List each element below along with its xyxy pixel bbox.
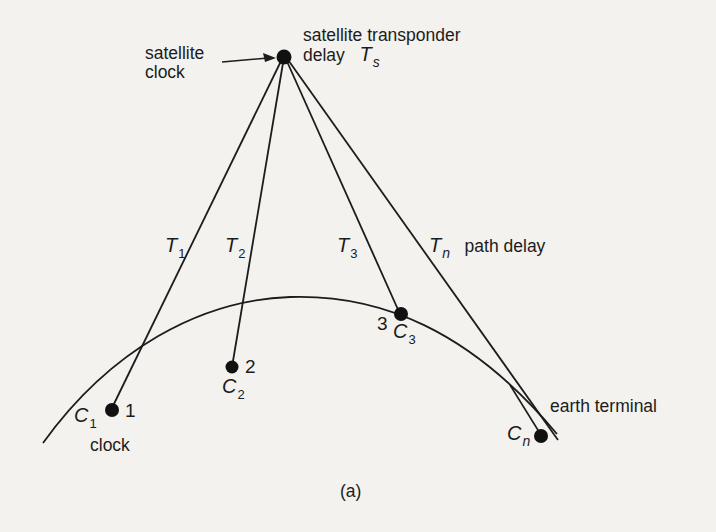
t3-subscript: 3 xyxy=(350,246,357,261)
tn-symbol: T xyxy=(429,234,441,256)
path-line-1 xyxy=(111,57,283,410)
c3-subscript: 3 xyxy=(408,332,415,347)
cn-symbol: C xyxy=(507,422,521,444)
terminal-node-n xyxy=(534,429,548,443)
t2-subscript: 2 xyxy=(238,246,245,261)
path-label-3: T3 xyxy=(337,236,357,257)
ts-subscript: s xyxy=(373,54,380,70)
t2-symbol: T xyxy=(225,234,237,256)
figure-caption: (a) xyxy=(340,482,361,501)
terminal-2-symbol: C2 xyxy=(222,377,245,398)
satellite-node xyxy=(277,50,292,65)
path-label-2: T2 xyxy=(225,236,245,257)
c3-symbol: C xyxy=(393,320,407,342)
terminal-node-3 xyxy=(394,307,408,321)
earth-surface-arc xyxy=(43,297,557,443)
t1-symbol: T xyxy=(165,234,177,256)
terminal-3-symbol: C3 xyxy=(393,322,416,343)
tn-subscript: n xyxy=(442,245,450,261)
cn-subscript: n xyxy=(522,433,530,449)
path-line-3 xyxy=(285,57,400,314)
transponder-label: satellite transponder delay Ts xyxy=(303,26,461,66)
c1-subscript: 1 xyxy=(89,416,96,431)
path-delay-text: path delay xyxy=(465,236,546,256)
c2-subscript: 2 xyxy=(237,387,244,402)
terminal-n-symbol: Cn xyxy=(507,424,530,445)
path-label-n: Tn path delay xyxy=(429,236,545,257)
t3-symbol: T xyxy=(337,234,349,256)
terminal-1-symbol: C1 xyxy=(74,406,97,427)
satellite-clock-label: satellite clock xyxy=(145,44,204,82)
satellite-clock-label-line2: clock xyxy=(145,63,204,82)
ts-symbol: T xyxy=(359,43,371,65)
terminal-1-clock-label: clock xyxy=(90,436,130,455)
satellite-timing-diagram: satellite clock satellite transponder de… xyxy=(0,0,716,532)
path-line-2 xyxy=(232,57,284,367)
transponder-label-line2: delay Ts xyxy=(303,45,461,66)
terminal-2-number: 2 xyxy=(245,357,256,376)
c2-symbol: C xyxy=(222,375,236,397)
earth-terminal-label: earth terminal xyxy=(550,397,657,416)
c1-symbol: C xyxy=(74,404,88,426)
terminal-3-number: 3 xyxy=(377,314,388,333)
satellite-clock-label-line1: satellite xyxy=(145,44,204,63)
transponder-label-line1: satellite transponder xyxy=(303,26,461,45)
satellite-clock-arrow xyxy=(222,58,268,62)
delay-word: delay xyxy=(303,45,345,65)
t1-subscript: 1 xyxy=(178,246,185,261)
terminal-node-1 xyxy=(105,403,119,417)
arrowhead-icon xyxy=(263,53,276,62)
path-label-1: T1 xyxy=(165,236,185,257)
terminal-1-number: 1 xyxy=(125,401,136,420)
terminal-node-2 xyxy=(226,361,239,374)
